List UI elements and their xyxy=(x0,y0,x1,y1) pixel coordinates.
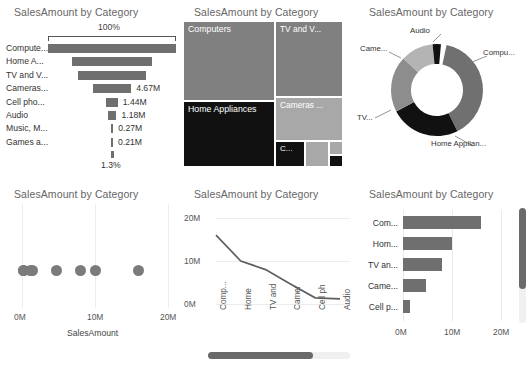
bar-category-label: Came... xyxy=(355,281,398,291)
dashboard-grid: SalesAmount by Category 100%Compute...Ho… xyxy=(0,0,531,365)
bar-x-tick-label: 10M xyxy=(444,327,460,337)
funnel-bar[interactable] xyxy=(78,71,146,80)
bar-gridline xyxy=(501,210,502,321)
treemap-cell-label: Computers xyxy=(184,22,274,35)
panel-line-chart[interactable]: SalesAmount by Category 0M10M20MComp...H… xyxy=(180,182,355,365)
bar-rect[interactable] xyxy=(403,216,481,229)
line-scrollbar-thumb[interactable] xyxy=(208,352,313,359)
funnel-plot-area: 100%Compute...Home A...TV and V...Camera… xyxy=(0,18,180,178)
treemap-cell[interactable]: Computers xyxy=(184,22,274,100)
bar-rect[interactable] xyxy=(403,237,452,250)
scatter-point[interactable] xyxy=(75,265,86,276)
bar-category-label: TV an... xyxy=(355,260,398,270)
treemap-cell[interactable]: Home Appliances xyxy=(184,102,274,166)
funnel-bar[interactable] xyxy=(108,111,117,120)
treemap-cell-label: Home Appliances xyxy=(184,102,274,115)
bar-category-label: Hom... xyxy=(355,239,398,249)
scatter-point[interactable] xyxy=(51,265,62,276)
scatter-gridline xyxy=(95,204,96,308)
panel-treemap-chart[interactable]: SalesAmount by Category ComputersHome Ap… xyxy=(180,0,355,182)
donut-leader-line xyxy=(375,110,391,118)
treemap-plot-area: ComputersHome AppliancesTV and V...Camer… xyxy=(180,18,355,173)
scatter-x-tick-label: 0M xyxy=(14,312,26,322)
donut-label: Came... xyxy=(360,44,387,53)
bar-scrollbar-thumb[interactable] xyxy=(519,208,526,289)
donut-label: Compu... xyxy=(483,48,515,57)
line-x-tick-label: TV and xyxy=(269,284,278,310)
funnel-axis-top-label: 100% xyxy=(98,22,120,32)
treemap-cell[interactable] xyxy=(330,156,342,166)
treemap-cell-label: C... xyxy=(276,142,304,154)
scatter-point[interactable] xyxy=(90,265,101,276)
funnel-value-label: 0.21M xyxy=(118,137,142,147)
funnel-value-label: 1.44M xyxy=(123,97,147,107)
funnel-category-label: Cameras... xyxy=(6,83,48,93)
bar-plot-area: 0M10M20MCom...Hom...TV an...Came...Cell … xyxy=(355,200,531,365)
line-x-tick-label: Audio xyxy=(343,289,352,310)
donut-label: Home Applian... xyxy=(431,139,486,148)
funnel-bar[interactable] xyxy=(111,124,114,133)
line-x-tick-label: Camer xyxy=(293,285,302,310)
funnel-category-label: Home A... xyxy=(6,56,44,66)
donut-leader-line xyxy=(433,34,441,42)
scatter-point[interactable] xyxy=(133,265,144,276)
line-chart-title: SalesAmount by Category xyxy=(180,182,355,200)
funnel-value-label: 0.27M xyxy=(118,123,142,133)
scatter-x-tick-label: 10M xyxy=(87,312,103,322)
funnel-bar[interactable] xyxy=(72,57,151,66)
bar-rect[interactable] xyxy=(403,279,426,292)
donut-chart-title: SalesAmount by Category xyxy=(355,0,531,18)
funnel-category-label: Music, M... xyxy=(6,123,48,133)
donut-label: TV... xyxy=(357,113,373,122)
scatter-plot-area: 0M10M20MSalesAmount xyxy=(0,200,180,360)
panel-bar-chart[interactable]: SalesAmount by Category 0M10M20MCom...Ho… xyxy=(355,182,531,365)
funnel-axis-bracket xyxy=(48,36,176,41)
funnel-chart-title: SalesAmount by Category xyxy=(0,0,180,18)
scatter-x-axis-title: SalesAmount xyxy=(67,328,118,338)
bar-rect[interactable] xyxy=(403,300,410,313)
funnel-bar[interactable] xyxy=(106,98,118,107)
bar-x-tick-label: 20M xyxy=(493,327,509,337)
panel-funnel-chart[interactable]: SalesAmount by Category 100%Compute...Ho… xyxy=(0,0,180,182)
funnel-value-label: 1.18M xyxy=(121,110,145,120)
line-x-tick-label: Comp... xyxy=(219,281,228,310)
treemap-cell[interactable]: TV and V... xyxy=(276,22,342,96)
funnel-category-label: Compute... xyxy=(6,43,48,53)
line-x-tick-label: Home xyxy=(244,288,253,310)
donut-segment[interactable] xyxy=(396,102,457,136)
funnel-value-label: 4.67M xyxy=(136,83,160,93)
donut-label: Audio xyxy=(410,26,430,35)
treemap-cell-label: TV and V... xyxy=(276,22,342,34)
scatter-chart-title: SalesAmount by Category xyxy=(0,182,180,200)
treemap-cell[interactable] xyxy=(330,142,342,154)
funnel-bar[interactable] xyxy=(48,44,176,53)
bar-category-label: Cell p... xyxy=(355,302,398,312)
funnel-bar[interactable] xyxy=(93,84,131,93)
funnel-category-label: Games a... xyxy=(6,137,48,147)
funnel-percent-label: 1.3% xyxy=(101,160,121,170)
panel-scatter-chart[interactable]: SalesAmount by Category 0M10M20MSalesAmo… xyxy=(0,182,180,365)
line-svg xyxy=(180,200,355,315)
treemap-cell[interactable]: C... xyxy=(276,142,304,166)
funnel-category-label: Cell pho... xyxy=(6,97,45,107)
funnel-category-label: Audio xyxy=(6,110,28,120)
treemap-cell[interactable] xyxy=(306,142,328,166)
treemap-chart-title: SalesAmount by Category xyxy=(180,0,355,18)
bar-rect[interactable] xyxy=(403,258,442,271)
donut-plot-area: Compu...Home Applian...TV...Came...Audio xyxy=(355,18,531,178)
panel-donut-chart[interactable]: SalesAmount by Category Compu...Home App… xyxy=(355,0,531,182)
donut-leader-line xyxy=(389,52,401,58)
scatter-gridline xyxy=(22,204,23,308)
scatter-x-tick-label: 20M xyxy=(160,312,176,322)
funnel-category-label: TV and V... xyxy=(6,70,48,80)
funnel-bar[interactable] xyxy=(111,138,113,147)
funnel-bar-tail xyxy=(111,151,114,158)
treemap-cell-label: Cameras ... xyxy=(276,98,342,110)
line-x-tick-label: Cell ph xyxy=(318,285,327,311)
line-plot-area: 0M10M20MComp...HomeTV andCamerCell phAud… xyxy=(180,200,355,365)
scatter-point[interactable] xyxy=(27,265,38,276)
bar-category-label: Com... xyxy=(355,218,398,228)
treemap-cell[interactable]: Cameras ... xyxy=(276,98,342,140)
bar-chart-title: SalesAmount by Category xyxy=(355,182,531,200)
bar-x-tick-label: 0M xyxy=(395,327,407,337)
